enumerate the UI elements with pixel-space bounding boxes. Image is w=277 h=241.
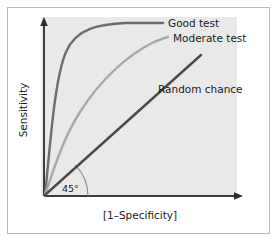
good-test-label: Good test	[168, 17, 219, 29]
angle-label: 45°	[62, 183, 79, 194]
x-axis-arrowhead	[234, 192, 243, 200]
y-axis-label: Sensitivity	[17, 83, 29, 138]
random-chance-label: Random chance	[158, 83, 243, 95]
roc-plot: Good test Moderate test Random chance 45…	[0, 0, 277, 241]
x-axis-label: [1–Specificity]	[103, 209, 177, 221]
moderate-test-label: Moderate test	[173, 32, 246, 44]
roc-curve-figure: Good test Moderate test Random chance 45…	[0, 0, 277, 241]
